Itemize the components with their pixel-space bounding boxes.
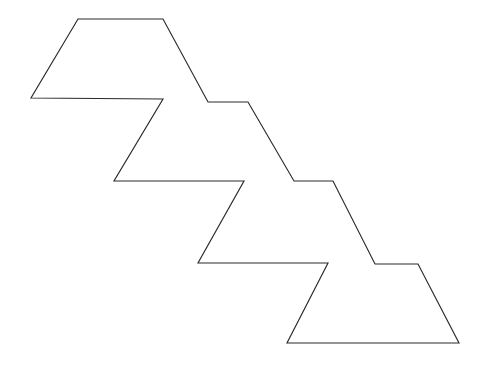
figure-canvas [0, 0, 486, 365]
polygon-figure-svg [0, 0, 486, 365]
